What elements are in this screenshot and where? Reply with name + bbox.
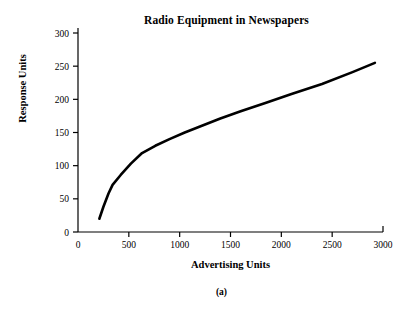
y-tick-label: 300	[55, 29, 70, 39]
x-tick-label: 1500	[221, 240, 240, 250]
x-tick-label: 500	[122, 240, 137, 250]
y-tick-label: 50	[60, 194, 70, 204]
x-axis-title: Advertising Units	[78, 259, 383, 270]
y-axis-ticks: 050100150200250300	[55, 29, 78, 238]
y-tick-label: 250	[55, 62, 70, 72]
data-series-line	[99, 63, 375, 219]
x-tick-label: 3000	[374, 240, 393, 250]
figure-container: Radio Equipment in Newspapers 0501001502…	[0, 0, 413, 311]
figure-caption: (a)	[0, 287, 413, 297]
y-tick-label: 0	[64, 228, 69, 238]
x-tick-label: 0	[76, 240, 81, 250]
y-axis-title: Response Units	[17, 29, 28, 149]
x-tick-label: 2000	[272, 240, 291, 250]
x-tick-label: 1000	[170, 240, 189, 250]
x-axis-ticks: 050010001500200025003000	[76, 232, 393, 250]
y-tick-label: 150	[55, 128, 70, 138]
x-tick-label: 2500	[323, 240, 342, 250]
y-tick-label: 200	[55, 95, 70, 105]
y-tick-label: 100	[55, 161, 70, 171]
axes	[78, 28, 383, 232]
